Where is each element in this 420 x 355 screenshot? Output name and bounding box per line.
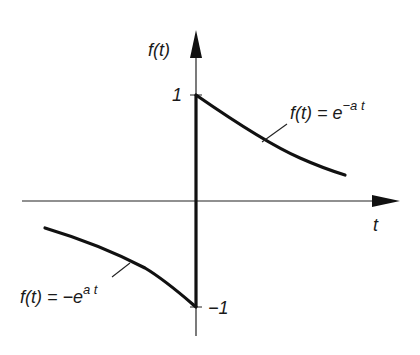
t-axis-arrow-icon	[372, 195, 400, 207]
y-axis-label: f(t)	[148, 40, 170, 61]
left-curve-label: f(t) = −ea t	[20, 284, 98, 308]
leader-left	[112, 263, 130, 277]
leader-right	[262, 124, 287, 142]
tick-label-1: 1	[172, 85, 182, 106]
x-axis-label: t	[373, 215, 378, 236]
right-curve-label: f(t) = e−a t	[290, 100, 365, 124]
tick-label-neg1: −1	[208, 298, 229, 319]
f-axis-arrow-icon	[190, 30, 202, 58]
